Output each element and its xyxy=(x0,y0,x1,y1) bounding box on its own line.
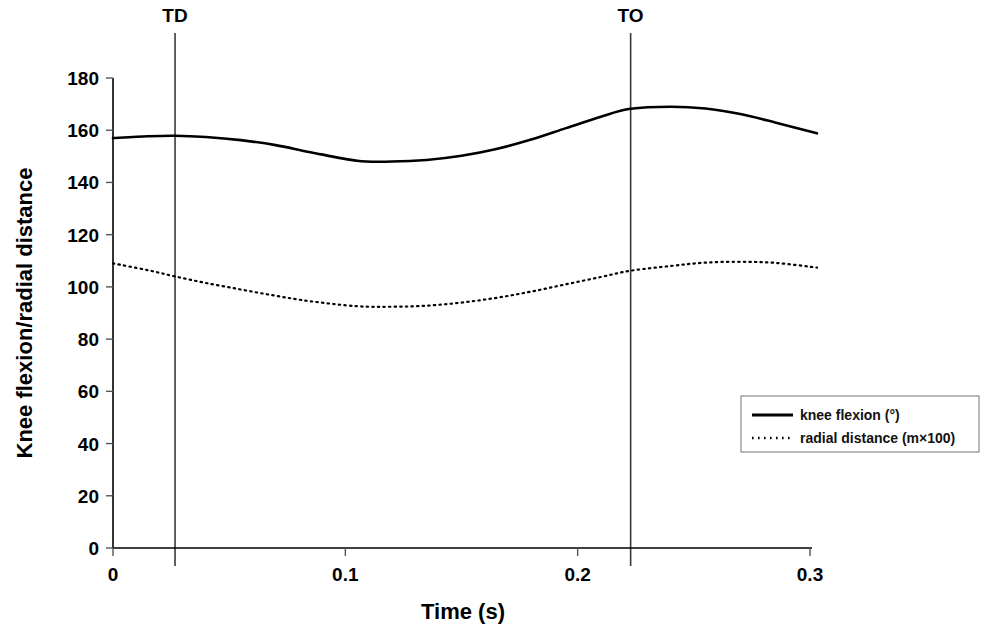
y-tick-label: 120 xyxy=(67,225,99,246)
y-tick-label: 20 xyxy=(78,486,99,507)
y-tick-label: 0 xyxy=(88,538,99,559)
knee-flexion-radial-distance-chart: TD TO 020406080100120140160180 00.10.20.… xyxy=(0,0,985,641)
legend-label-radial-distance: radial distance (m×100) xyxy=(800,430,955,446)
x-tick-label: 0.2 xyxy=(564,564,590,585)
y-tick-label: 100 xyxy=(67,277,99,298)
y-tick-label: 40 xyxy=(78,434,99,455)
x-tick-label: 0.1 xyxy=(332,564,359,585)
to-label: TO xyxy=(618,5,644,26)
y-tick-label: 80 xyxy=(78,329,99,350)
y-axis-title: Knee flexion/radial distance xyxy=(12,168,37,459)
y-tick-label: 60 xyxy=(78,381,99,402)
legend: knee flexion (°) radial distance (m×100) xyxy=(741,396,979,452)
y-tick-label: 180 xyxy=(67,68,99,89)
x-tick-label: 0 xyxy=(108,564,119,585)
y-tick-label: 160 xyxy=(67,120,99,141)
legend-label-knee-flexion: knee flexion (°) xyxy=(800,407,900,423)
chart-background xyxy=(0,0,985,641)
x-axis-title: Time (s) xyxy=(421,599,505,624)
y-tick-label: 140 xyxy=(67,172,99,193)
x-tick-label: 0.3 xyxy=(797,564,823,585)
td-label: TD xyxy=(162,5,187,26)
